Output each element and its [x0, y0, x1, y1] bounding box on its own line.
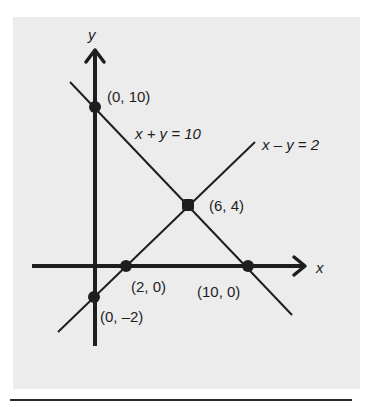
point-0-neg2	[88, 291, 100, 303]
point-2-0	[120, 260, 132, 272]
line-x-plus-y-eq-10	[70, 82, 292, 315]
x-axis	[32, 257, 305, 275]
line-x-minus-y-eq-2	[58, 142, 255, 332]
horizontal-rule	[10, 399, 352, 401]
point-label-2-0: (2, 0)	[131, 278, 166, 295]
point-label-10-0: (10, 0)	[197, 283, 240, 300]
point-0-10	[89, 101, 101, 113]
point-label-0-10: (0, 10)	[107, 88, 150, 105]
y-axis-label: y	[87, 26, 97, 43]
point-6-4	[182, 199, 194, 211]
point-label-0-neg2: (0, –2)	[100, 308, 143, 325]
x-axis-label: x	[315, 259, 324, 276]
equation-label-x-plus-y: x + y = 10	[134, 125, 202, 142]
equation-label-x-minus-y: x – y = 2	[261, 136, 320, 153]
point-10-0	[242, 260, 254, 272]
linear-equations-graph: y x (0, 10) (6, 4) (2, 0) (10, 0) (0, –2…	[0, 0, 376, 407]
point-label-6-4: (6, 4)	[209, 197, 244, 214]
